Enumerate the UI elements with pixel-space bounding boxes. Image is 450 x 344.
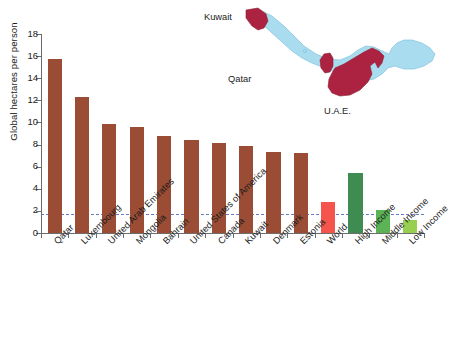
bar-qatar[interactable] (48, 59, 62, 233)
bar-luxembourg[interactable] (75, 97, 89, 233)
y-tick-label: 18 (27, 28, 38, 39)
bar-denmark[interactable] (266, 152, 280, 233)
y-tick-label: 0 (33, 227, 38, 238)
y-axis-title: Global hectares per person (8, 0, 19, 167)
map-label-qatar: Qatar (228, 74, 251, 84)
qatar-region (320, 53, 333, 73)
y-tick-label: 12 (27, 94, 38, 105)
y-tick-label: 4 (33, 182, 38, 193)
y-tick-label: 8 (33, 138, 38, 149)
y-tick-label: 6 (33, 160, 38, 171)
y-tick-label: 14 (27, 72, 38, 83)
bar-high-income[interactable] (348, 173, 362, 233)
map-label-kuwait: Kuwait (204, 12, 232, 22)
kuwait-region (246, 8, 268, 30)
x-tick-mark (41, 233, 42, 238)
y-tick-label: 10 (27, 116, 38, 127)
persian-gulf-map-inset: Kuwait Qatar U.A.E. (232, 6, 440, 106)
y-tick-label: 2 (33, 204, 38, 215)
map-label-uae: U.A.E. (324, 106, 351, 116)
y-tick-label: 16 (27, 50, 38, 61)
bar-world[interactable] (321, 202, 335, 233)
world-biocapacity-reference-line (41, 214, 424, 215)
persian-gulf-map-svg (232, 6, 440, 106)
y-axis-line (41, 34, 42, 233)
